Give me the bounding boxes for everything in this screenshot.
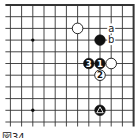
figure-caption: 図34 [2,133,25,138]
move-number: 2 [97,70,103,80]
point-marker-b: b [108,34,114,45]
go-board-diagram: ab 312 [0,0,137,138]
star-point-icon [31,38,34,41]
white-stone [106,58,117,69]
white-stone [72,23,83,34]
point-markers: ab [107,23,115,46]
point-marker-a: a [108,23,114,34]
black-stone [95,35,106,46]
move-number: 3 [86,59,92,69]
move-number: 1 [97,59,103,69]
star-point-icon [31,109,34,112]
